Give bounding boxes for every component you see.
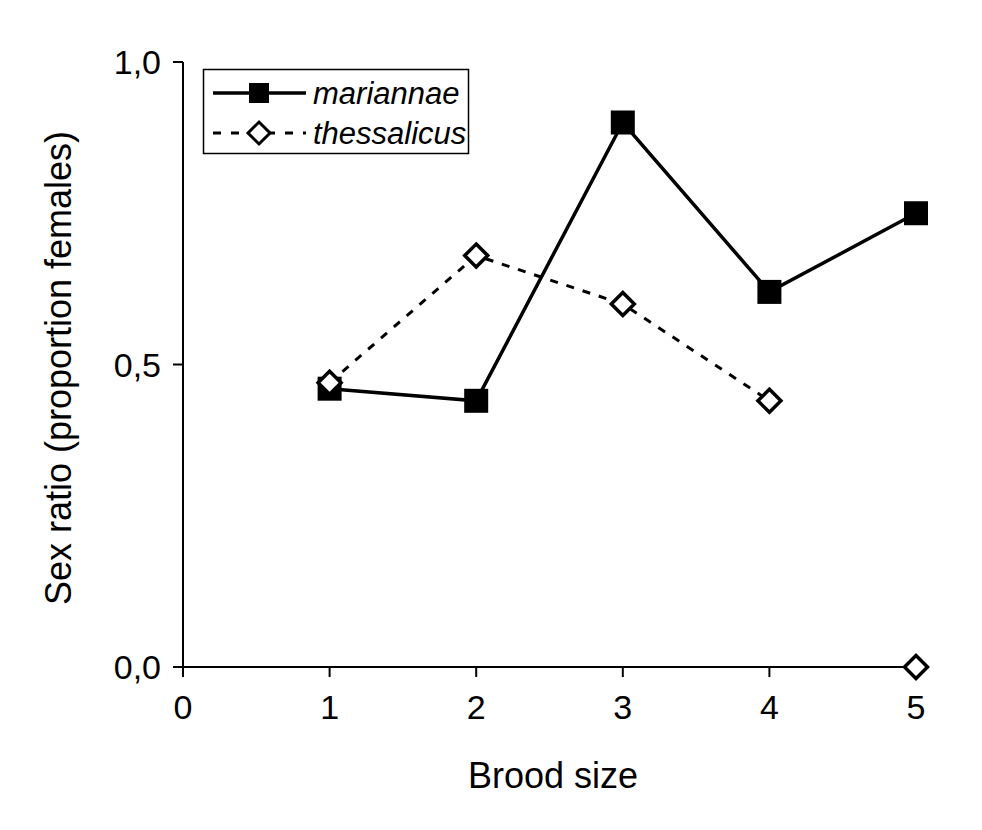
y-tick-label: 0,0 — [114, 648, 161, 686]
data-point-filled-square-mariannae — [757, 280, 781, 304]
data-point-open-diamond-thessalicus — [465, 244, 488, 267]
x-tick-label: 5 — [907, 688, 926, 726]
chart: 0123450,00,51,0 Brood size Sex ratio (pr… — [0, 0, 982, 830]
x-tick-label: 3 — [613, 688, 632, 726]
series-thessalicus — [318, 244, 927, 678]
x-tick-label: 0 — [174, 688, 193, 726]
y-tick-label: 1,0 — [114, 43, 161, 81]
series-mariannae — [318, 111, 928, 413]
data-point-open-diamond-thessalicus — [758, 389, 781, 412]
data-point-open-diamond-thessalicus — [611, 293, 634, 316]
data-point-open-diamond-thessalicus — [905, 656, 928, 679]
data-point-filled-square-mariannae — [464, 389, 488, 413]
series-line-thessalicus — [330, 256, 770, 401]
legend-label-thessalicus: thessalicus — [313, 116, 466, 151]
y-tick-label: 0,5 — [114, 346, 161, 384]
y-axis-title: Sex ratio (proportion females) — [38, 131, 79, 605]
legend-filled-square-icon — [249, 83, 269, 103]
series-line-mariannae — [330, 123, 916, 401]
x-tick-label: 2 — [467, 688, 486, 726]
series-layer — [318, 111, 928, 679]
legend: mariannae thessalicus — [204, 70, 469, 154]
x-tick-label: 1 — [320, 688, 339, 726]
data-point-filled-square-mariannae — [611, 111, 635, 135]
legend-label-mariannae: mariannae — [313, 76, 459, 111]
data-point-filled-square-mariannae — [904, 201, 928, 225]
figure: 0123450,00,51,0 Brood size Sex ratio (pr… — [0, 0, 982, 830]
x-axis-title: Brood size — [468, 755, 638, 796]
x-tick-label: 4 — [760, 688, 779, 726]
